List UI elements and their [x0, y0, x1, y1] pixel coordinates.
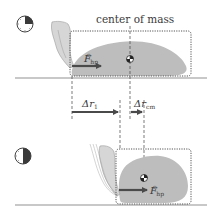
center-of-mass-diagram: center of mass Fchp Δr1 Δrcm Fchp [0, 0, 215, 215]
hand-icon-top [51, 21, 74, 68]
center-of-mass-label: center of mass [96, 14, 174, 25]
displacement-label-1: Δr1 [82, 99, 98, 110]
hand-icon-bottom [90, 144, 120, 196]
diagram-graphics [0, 0, 215, 215]
force-label-top: Fchp [84, 52, 98, 65]
clock-icon-top [17, 16, 33, 32]
displacement-label-cm: Δrcm [134, 99, 155, 110]
force-label-bottom: Fchp [150, 184, 164, 197]
center-of-mass-marker-bottom [141, 175, 148, 182]
clock-icon-bottom [15, 148, 31, 164]
